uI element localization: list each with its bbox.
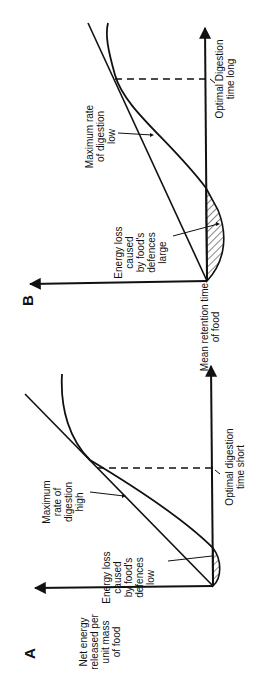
panel-a-y-axis-label: Net energy released per unit mass of foo…	[78, 602, 122, 682]
panel-b-energy-loss-region	[206, 188, 224, 281]
panel-b-x-axis-label: Mean retention time of food	[199, 282, 221, 372]
panel-b-optimal-label: Optimal Digestion time long	[214, 34, 236, 124]
panel-b-label: B	[19, 295, 36, 306]
panel-a-optimal-label: Optimal digestion time short	[224, 422, 246, 512]
panel-b-energy-loss-label: Energy loss caused by food's defences la…	[113, 213, 168, 293]
panel-b-energy-curve	[107, 23, 206, 188]
panel-a-energy-loss-label: Energy loss caused by food's defences lo…	[101, 543, 156, 613]
panel-a-max-rate-label: Maximum rate of digestion high	[41, 467, 85, 537]
panel-a-label: A	[21, 648, 38, 659]
panel-a-energy-loss-region	[213, 548, 220, 586]
panel-b-max-rate-label: Maximum rate of digestion low	[84, 97, 117, 177]
